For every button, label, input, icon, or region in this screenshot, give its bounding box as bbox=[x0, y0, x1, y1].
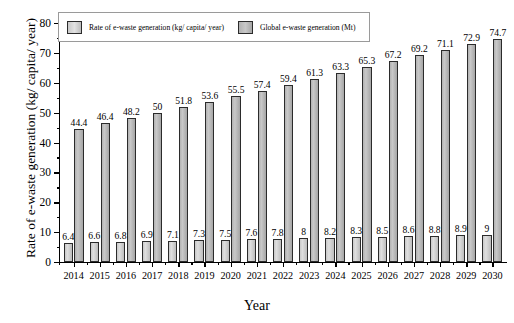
x-tick-minor bbox=[453, 262, 454, 265]
x-tick-label-2015: 2015 bbox=[90, 270, 110, 281]
bar-rate-2014 bbox=[64, 243, 73, 262]
chart-container: Rate of e-waste generation (kg/ capita/ … bbox=[0, 0, 514, 323]
x-tick-2018 bbox=[178, 262, 179, 267]
bar-value-label-rate-2021: 7.6 bbox=[245, 227, 257, 238]
x-tick-minor bbox=[191, 262, 192, 265]
bar-rate-2021 bbox=[247, 239, 256, 262]
x-tick-minor bbox=[375, 262, 376, 265]
y-tick-label-80: 80 bbox=[40, 17, 52, 29]
bar-value-label-global-2017: 50 bbox=[153, 101, 163, 112]
bar-value-label-global-2028: 71.1 bbox=[437, 38, 454, 49]
x-tick-label-2029: 2029 bbox=[456, 270, 476, 281]
y-tick-minor bbox=[57, 157, 61, 158]
x-tick-2014 bbox=[74, 262, 75, 267]
x-tick-minor bbox=[87, 262, 88, 265]
bar-rate-2024 bbox=[325, 238, 334, 262]
bar-global-2024 bbox=[336, 73, 345, 262]
plot-area: 01020304050607080 2014201520162017201820… bbox=[60, 23, 505, 262]
x-axis-title: Year bbox=[0, 298, 514, 314]
x-tick-2017 bbox=[152, 262, 153, 267]
x-tick-minor bbox=[270, 262, 271, 265]
bar-rate-2015 bbox=[90, 242, 99, 262]
x-tick-2028 bbox=[440, 262, 441, 267]
y-tick-label-40: 40 bbox=[40, 137, 52, 149]
bar-value-label-rate-2018: 7.1 bbox=[167, 229, 179, 240]
bar-global-2030 bbox=[493, 39, 502, 262]
legend-swatch-icon-global bbox=[238, 21, 253, 34]
y-tick-minor bbox=[57, 68, 61, 69]
bar-global-2026 bbox=[389, 61, 398, 262]
x-tick-2029 bbox=[466, 262, 467, 267]
x-tick-label-2022: 2022 bbox=[273, 270, 293, 281]
bar-rate-2022 bbox=[273, 239, 282, 262]
x-tick-2022 bbox=[283, 262, 284, 267]
bar-rate-2020 bbox=[221, 240, 230, 262]
bar-value-label-global-2026: 67.2 bbox=[385, 49, 402, 60]
x-tick-minor bbox=[296, 262, 297, 265]
bar-rate-2030 bbox=[482, 235, 491, 262]
y-tick-70 bbox=[54, 53, 60, 54]
legend-item-rate[interactable]: Rate of e-waste generation (kg/ capita/ … bbox=[67, 21, 224, 34]
bar-value-label-global-2030: 74.7 bbox=[489, 27, 506, 38]
bar-value-label-rate-2020: 7.5 bbox=[219, 228, 231, 239]
x-tick-2027 bbox=[414, 262, 415, 267]
bar-value-label-rate-2023: 8 bbox=[301, 226, 306, 237]
x-tick-label-2024: 2024 bbox=[325, 270, 345, 281]
y-tick-label-0: 0 bbox=[45, 256, 51, 268]
bar-value-label-rate-2027: 8.6 bbox=[402, 224, 414, 235]
x-tick-label-2030: 2030 bbox=[482, 270, 502, 281]
bar-value-label-rate-2014: 6.4 bbox=[62, 231, 74, 242]
bar-value-label-global-2016: 48.2 bbox=[123, 106, 140, 117]
x-tick-2025 bbox=[362, 262, 363, 267]
y-tick-label-50: 50 bbox=[40, 107, 52, 119]
legend-label-rate: Rate of e-waste generation (kg/ capita/ … bbox=[89, 23, 224, 32]
x-tick-minor bbox=[401, 262, 402, 265]
x-tick-label-2018: 2018 bbox=[168, 270, 188, 281]
bar-rate-2025 bbox=[352, 237, 361, 262]
bar-value-label-rate-2024: 8.2 bbox=[324, 226, 336, 237]
bar-rate-2019 bbox=[194, 240, 203, 262]
y-tick-40 bbox=[54, 143, 60, 144]
bar-rate-2023 bbox=[299, 238, 308, 262]
x-tick-label-2016: 2016 bbox=[116, 270, 136, 281]
bar-value-label-rate-2019: 7.3 bbox=[193, 228, 205, 239]
bar-value-label-global-2022: 59.4 bbox=[280, 73, 297, 84]
bar-value-label-global-2015: 46.4 bbox=[97, 111, 114, 122]
x-tick-2024 bbox=[335, 262, 336, 267]
y-tick-minor bbox=[57, 128, 61, 129]
x-tick-minor bbox=[244, 262, 245, 265]
bar-value-label-global-2019: 53.6 bbox=[201, 90, 218, 101]
x-tick-minor bbox=[479, 262, 480, 265]
x-tick-label-2021: 2021 bbox=[247, 270, 267, 281]
x-tick-2030 bbox=[492, 262, 493, 267]
bar-rate-2028 bbox=[430, 236, 439, 262]
x-tick-label-2017: 2017 bbox=[142, 270, 162, 281]
bar-rate-2026 bbox=[378, 237, 387, 262]
y-tick-label-60: 60 bbox=[40, 77, 52, 89]
y-tick-minor bbox=[57, 247, 61, 248]
x-tick-label-2023: 2023 bbox=[299, 270, 319, 281]
y-tick-label-20: 20 bbox=[40, 196, 52, 208]
bar-global-2014 bbox=[74, 129, 83, 262]
bar-value-label-global-2023: 61.3 bbox=[306, 67, 323, 78]
y-tick-10 bbox=[54, 232, 60, 233]
y-tick-minor bbox=[57, 98, 61, 99]
y-tick-50 bbox=[54, 113, 60, 114]
x-tick-minor bbox=[113, 262, 114, 265]
bar-rate-2027 bbox=[404, 236, 413, 262]
legend-label-global: Global e-waste generation (Mt) bbox=[260, 23, 356, 32]
bar-value-label-global-2014: 44.4 bbox=[71, 117, 88, 128]
bar-value-label-global-2020: 55.5 bbox=[228, 84, 245, 95]
bar-value-label-rate-2015: 6.6 bbox=[88, 230, 100, 241]
bar-global-2025 bbox=[362, 67, 371, 262]
y-tick-minor bbox=[57, 187, 61, 188]
x-tick-2021 bbox=[257, 262, 258, 267]
bar-global-2023 bbox=[310, 79, 319, 262]
bar-value-label-rate-2026: 8.5 bbox=[376, 225, 388, 236]
bar-value-label-global-2029: 72.9 bbox=[463, 32, 480, 43]
bar-global-2020 bbox=[231, 96, 240, 262]
bar-rate-2016 bbox=[116, 242, 125, 262]
x-tick-label-2026: 2026 bbox=[378, 270, 398, 281]
legend-item-global[interactable]: Global e-waste generation (Mt) bbox=[238, 21, 356, 34]
x-tick-2023 bbox=[309, 262, 310, 267]
